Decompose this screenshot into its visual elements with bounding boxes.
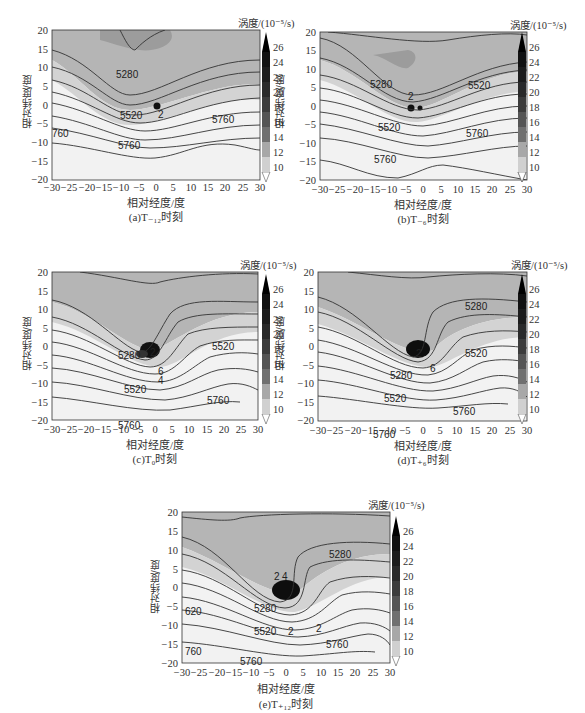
- svg-text:15: 15: [470, 184, 481, 195]
- svg-text:−5: −5: [132, 424, 143, 435]
- svg-text:5: 5: [300, 667, 305, 678]
- svg-text:−20: −20: [79, 182, 95, 193]
- svg-text:10: 10: [306, 64, 317, 75]
- svg-text:−10: −10: [243, 667, 259, 678]
- y-axis-label: 相对纬度/度: [148, 560, 163, 613]
- svg-text:20: 20: [304, 267, 315, 278]
- svg-text:−25: −25: [329, 184, 345, 195]
- svg-text:10: 10: [38, 304, 49, 315]
- svg-text:15: 15: [203, 182, 214, 193]
- svg-text:22: 22: [403, 556, 414, 567]
- svg-text:5: 5: [173, 564, 178, 575]
- svg-text:−10: −10: [380, 425, 396, 436]
- svg-text:15: 15: [333, 667, 344, 678]
- svg-text:−5: −5: [133, 182, 144, 193]
- svg-text:15: 15: [168, 526, 179, 537]
- y-axis-label: 相对纬度/度: [20, 317, 35, 370]
- svg-text:0: 0: [309, 341, 314, 352]
- svg-text:15: 15: [38, 44, 49, 55]
- panel-caption: (c)T₀时刻: [105, 450, 205, 466]
- svg-text:5520: 5520: [124, 384, 147, 395]
- svg-text:22: 22: [529, 72, 540, 83]
- svg-text:30: 30: [522, 184, 533, 195]
- svg-text:20: 20: [529, 329, 540, 340]
- svg-text:0: 0: [152, 424, 157, 435]
- svg-text:5520: 5520: [254, 626, 277, 637]
- svg-text:5280: 5280: [116, 69, 139, 80]
- svg-text:−15: −15: [32, 156, 48, 167]
- svg-text:24: 24: [529, 299, 540, 310]
- svg-text:16: 16: [529, 117, 540, 128]
- svg-text:−15: −15: [32, 397, 48, 408]
- svg-text:24: 24: [529, 57, 540, 68]
- panel-a-plot: 5280 5520 5760 5760 760 2 26 24 22 20 18…: [0, 0, 290, 200]
- svg-text:25: 25: [505, 425, 516, 436]
- svg-text:5: 5: [169, 424, 174, 435]
- svg-text:0: 0: [420, 425, 425, 436]
- svg-text:−15: −15: [298, 397, 314, 408]
- svg-text:2: 2: [274, 571, 280, 582]
- svg-text:−15: −15: [162, 639, 178, 650]
- svg-text:5280: 5280: [118, 350, 141, 361]
- svg-text:25: 25: [238, 182, 249, 193]
- svg-text:15: 15: [306, 45, 317, 56]
- svg-text:−5: −5: [167, 601, 178, 612]
- svg-text:−5: −5: [399, 425, 410, 436]
- colorbar: 26 24 22 20 18 16 14 12 10: [392, 516, 414, 666]
- svg-text:0: 0: [420, 184, 425, 195]
- svg-text:−30: −30: [44, 424, 60, 435]
- svg-text:16: 16: [529, 359, 540, 370]
- panel-c-plot: 5280 5520 5520 5760 5760 2 6 4 26 24 22 …: [0, 242, 290, 442]
- svg-text:0: 0: [283, 667, 288, 678]
- svg-text:18: 18: [529, 344, 540, 355]
- svg-text:−15: −15: [362, 425, 378, 436]
- svg-text:−10: −10: [300, 138, 316, 149]
- svg-text:−10: −10: [113, 182, 129, 193]
- svg-text:10: 10: [403, 646, 414, 657]
- colorbar: 26 24 22 20 18 16 14 12 10: [518, 274, 540, 424]
- y-axis-label: 相对纬度/度: [20, 75, 35, 128]
- svg-text:6: 6: [430, 363, 436, 374]
- svg-text:5: 5: [170, 182, 175, 193]
- svg-text:−5: −5: [37, 118, 48, 129]
- svg-text:30: 30: [255, 182, 266, 193]
- svg-text:5760: 5760: [374, 154, 397, 165]
- svg-text:12: 12: [403, 631, 414, 642]
- svg-text:−20: −20: [345, 425, 361, 436]
- svg-text:5: 5: [438, 184, 443, 195]
- panel-a: 涡度/(10⁻⁵/s) 相对纬度/度 5280 5: [0, 0, 290, 225]
- svg-text:0: 0: [43, 100, 48, 111]
- colorbar: 26 24 22 20 18 16 14 12 10: [518, 32, 540, 182]
- svg-text:12: 12: [529, 147, 540, 158]
- svg-text:−15: −15: [96, 182, 112, 193]
- svg-text:30: 30: [253, 424, 264, 435]
- svg-text:18: 18: [403, 586, 414, 597]
- svg-text:5: 5: [311, 82, 316, 93]
- svg-text:15: 15: [202, 424, 213, 435]
- svg-text:10: 10: [186, 182, 197, 193]
- svg-text:2: 2: [150, 347, 156, 358]
- svg-text:−20: −20: [78, 424, 94, 435]
- svg-text:20: 20: [350, 667, 361, 678]
- svg-text:0: 0: [43, 341, 48, 352]
- svg-text:−30: −30: [312, 184, 328, 195]
- svg-text:10: 10: [316, 667, 327, 678]
- svg-text:10: 10: [184, 424, 195, 435]
- svg-text:−15: −15: [226, 667, 242, 678]
- svg-text:10: 10: [452, 425, 463, 436]
- panel-c: 涡度/(10⁻⁵/s) 相对纬度/度 5280 5520 5520: [0, 242, 290, 467]
- svg-text:14: 14: [529, 132, 540, 143]
- svg-text:4: 4: [158, 375, 164, 386]
- colorbar-title: 涡度/(10⁻⁵/s): [368, 497, 425, 512]
- svg-text:25: 25: [505, 184, 516, 195]
- svg-text:0: 0: [173, 582, 178, 593]
- svg-text:20: 20: [168, 507, 179, 518]
- svg-text:−25: −25: [327, 425, 343, 436]
- svg-text:−5: −5: [400, 184, 411, 195]
- x-axis-label: 相对经度/度: [236, 680, 336, 696]
- svg-text:5: 5: [309, 323, 314, 334]
- svg-text:15: 15: [470, 425, 481, 436]
- svg-text:26: 26: [403, 526, 414, 537]
- panel-caption: (d)T₊₆时刻: [373, 451, 473, 467]
- svg-text:5: 5: [437, 425, 442, 436]
